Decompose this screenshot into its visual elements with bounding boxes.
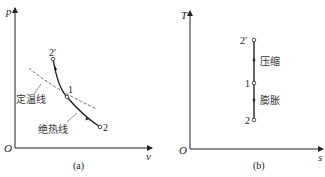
- point-2-b: [252, 118, 256, 122]
- adiabat-label: 绝热线: [38, 123, 68, 135]
- arrow-up-icon: [253, 57, 256, 61]
- point-2prime-b: [252, 38, 256, 42]
- p-axis-label: p: [5, 5, 12, 17]
- caption-a: (a): [73, 160, 84, 172]
- point-1-b: [252, 81, 256, 85]
- adiabat-curve: [53, 59, 100, 127]
- point-2-a: [98, 125, 102, 129]
- isotherm-label: 定温线: [16, 93, 46, 105]
- arrow-down-icon: [253, 99, 256, 103]
- expansion-label: 膨胀: [260, 94, 280, 106]
- label-1-b: 1: [245, 78, 250, 89]
- adiabat-leader: [67, 113, 77, 122]
- v-axis-label: v: [146, 150, 151, 162]
- T-axis-label: T: [181, 9, 188, 21]
- diagram-canvas: p O v (a) 2′ 1 2 定温线 绝热线 T O s (b): [0, 0, 325, 177]
- origin-label-a: O: [4, 142, 12, 154]
- panel-b-ts-diagram: T O s (b) 2′ 1 2 压缩 膨胀: [179, 9, 323, 172]
- label-1-a: 1: [68, 84, 73, 95]
- caption-b: (b): [253, 160, 265, 172]
- label-2prime-a: 2′: [49, 47, 56, 58]
- s-axis-label: s: [318, 151, 322, 163]
- panel-a-pv-diagram: p O v (a) 2′ 1 2 定温线 绝热线: [4, 5, 152, 172]
- label-2prime-b: 2′: [240, 35, 247, 46]
- origin-label-b: O: [179, 144, 187, 156]
- label-2-a: 2: [103, 122, 108, 133]
- isotherm-leader: [34, 84, 41, 94]
- label-2-b: 2: [245, 115, 250, 126]
- point-1-a: [65, 95, 69, 99]
- compression-label: 压缩: [260, 55, 280, 67]
